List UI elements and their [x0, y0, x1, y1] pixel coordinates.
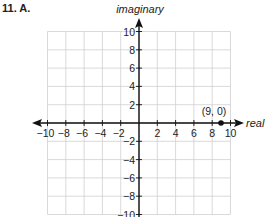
y-tick-label: 4 — [129, 80, 135, 92]
x-tick-label: 4 — [173, 127, 179, 139]
x-tick-label: −10 — [37, 127, 55, 139]
complex-plane-plot: −10−8−6−4−2246810108642−2−4−6−8−10 imagi… — [0, 0, 268, 217]
x-tick-label: 8 — [209, 127, 215, 139]
tick-labels: −10−8−6−4−2246810108642−2−4−6−8−10 — [37, 26, 237, 218]
y-tick-label: 10 — [123, 26, 135, 38]
y-tick-label: −4 — [123, 154, 135, 166]
point-9-0 — [218, 120, 224, 126]
y-axis-label: imaginary — [116, 3, 165, 15]
x-tick-label: 2 — [154, 127, 160, 139]
y-tick-label: −6 — [123, 172, 135, 184]
y-tick-label: −2 — [123, 135, 135, 147]
y-tick-label: 2 — [129, 99, 135, 111]
y-tick-label: 8 — [129, 44, 135, 56]
x-tick-label: −4 — [94, 127, 106, 139]
x-tick-label: −8 — [58, 127, 70, 139]
x-axis-label: real — [246, 117, 265, 129]
y-tick-label: −8 — [123, 190, 135, 202]
y-tick-label: −10 — [117, 209, 135, 218]
point-label: (9, 0) — [202, 105, 227, 117]
y-tick-label: 6 — [129, 62, 135, 74]
x-tick-label: 10 — [225, 127, 237, 139]
x-tick-label: 6 — [191, 127, 197, 139]
x-tick-label: −6 — [76, 127, 88, 139]
